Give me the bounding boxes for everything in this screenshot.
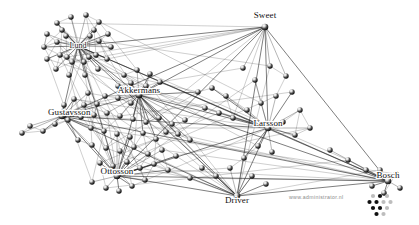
graph-node[interactable]: [65, 117, 70, 122]
graph-node[interactable]: [101, 128, 106, 133]
graph-node[interactable]: [157, 79, 162, 84]
graph-node[interactable]: [327, 147, 332, 152]
graph-node[interactable]: [129, 183, 134, 188]
graph-node[interactable]: [223, 93, 228, 98]
graph-node[interactable]: [169, 121, 174, 126]
graph-node[interactable]: [97, 160, 102, 165]
graph-node[interactable]: [269, 149, 274, 154]
graph-node[interactable]: [267, 63, 272, 68]
graph-node[interactable]: [307, 125, 312, 130]
graph-node[interactable]: [117, 148, 122, 153]
graph-node[interactable]: [369, 183, 374, 188]
graph-node[interactable]: [71, 96, 76, 101]
graph-node[interactable]: [44, 56, 49, 61]
graph-node[interactable]: [142, 177, 147, 182]
graph-node[interactable]: [91, 112, 96, 117]
graph-node[interactable]: [273, 93, 278, 98]
graph-node[interactable]: [63, 33, 68, 38]
graph-node[interactable]: [102, 93, 107, 98]
graph-node[interactable]: [283, 73, 288, 78]
graph-node[interactable]: [41, 44, 46, 49]
graph-node[interactable]: [75, 137, 80, 142]
graph-node[interactable]: [124, 159, 129, 164]
graph-node[interactable]: [54, 39, 59, 44]
graph-node[interactable]: [252, 77, 257, 82]
graph-node[interactable]: [59, 27, 64, 32]
graph-node[interactable]: [68, 14, 73, 19]
graph-node[interactable]: [96, 38, 101, 43]
graph-node[interactable]: [173, 153, 178, 158]
graph-node[interactable]: [27, 123, 32, 128]
graph-node[interactable]: [289, 89, 294, 94]
graph-node[interactable]: [128, 100, 133, 105]
graph-node[interactable]: [40, 128, 45, 133]
graph-node[interactable]: [258, 100, 263, 105]
graph-node[interactable]: [175, 131, 180, 136]
graph-node[interactable]: [249, 173, 254, 178]
graph-node[interactable]: [255, 143, 260, 148]
graph-node[interactable]: [89, 179, 94, 184]
graph-node[interactable]: [81, 59, 86, 64]
graph-node[interactable]: [64, 54, 69, 59]
graph-node[interactable]: [130, 116, 135, 121]
graph-node[interactable]: [153, 136, 158, 141]
graph-node[interactable]: [363, 167, 368, 172]
graph-node[interactable]: [115, 95, 120, 100]
graph-node[interactable]: [127, 134, 132, 139]
graph-node[interactable]: [121, 72, 126, 77]
graph-node[interactable]: [86, 54, 91, 59]
graph-node[interactable]: [151, 161, 156, 166]
graph-node[interactable]: [93, 52, 98, 57]
graph-node[interactable]: [140, 130, 145, 135]
graph-node[interactable]: [53, 66, 58, 71]
graph-node[interactable]: [163, 129, 168, 134]
graph-node[interactable]: [202, 105, 207, 110]
graph-node[interactable]: [83, 12, 88, 17]
graph-node[interactable]: [292, 132, 297, 137]
graph-node[interactable]: [116, 188, 121, 193]
graph-node[interactable]: [104, 56, 109, 61]
graph-node[interactable]: [103, 145, 108, 150]
graph-node[interactable]: [137, 165, 142, 170]
graph-node[interactable]: [85, 90, 90, 95]
graph-node[interactable]: [54, 20, 59, 25]
graph-hub-node-sweet[interactable]: [262, 24, 269, 31]
graph-node[interactable]: [156, 115, 161, 120]
graph-node[interactable]: [397, 185, 402, 190]
graph-node[interactable]: [108, 44, 113, 49]
graph-node[interactable]: [199, 165, 204, 170]
graph-node[interactable]: [19, 130, 24, 135]
graph-node[interactable]: [89, 142, 94, 147]
graph-node[interactable]: [96, 19, 101, 24]
graph-node[interactable]: [69, 59, 74, 64]
graph-node[interactable]: [66, 72, 71, 77]
graph-node[interactable]: [143, 119, 148, 124]
graph-node[interactable]: [230, 115, 235, 120]
graph-node[interactable]: [105, 31, 110, 36]
graph-node[interactable]: [57, 52, 62, 57]
graph-node[interactable]: [82, 72, 87, 77]
graph-node[interactable]: [209, 85, 214, 90]
graph-node[interactable]: [165, 167, 170, 172]
graph-node[interactable]: [240, 65, 245, 70]
graph-node[interactable]: [195, 89, 200, 94]
graph-node[interactable]: [345, 157, 350, 162]
graph-node[interactable]: [131, 144, 136, 149]
graph-node[interactable]: [88, 125, 93, 130]
graph-node[interactable]: [114, 131, 119, 136]
graph-node[interactable]: [263, 181, 268, 186]
graph-node[interactable]: [145, 151, 150, 156]
graph-node[interactable]: [187, 175, 192, 180]
graph-node[interactable]: [52, 121, 57, 126]
graph-node[interactable]: [95, 66, 100, 71]
graph-node[interactable]: [147, 71, 152, 76]
graph-node[interactable]: [241, 155, 246, 160]
graph-node[interactable]: [87, 33, 92, 38]
graph-node[interactable]: [187, 137, 192, 142]
graph-node[interactable]: [134, 67, 139, 72]
graph-node[interactable]: [91, 27, 96, 32]
graph-node[interactable]: [44, 31, 49, 36]
graph-node[interactable]: [227, 165, 232, 170]
graph-node[interactable]: [182, 117, 187, 122]
graph-node[interactable]: [216, 110, 221, 115]
